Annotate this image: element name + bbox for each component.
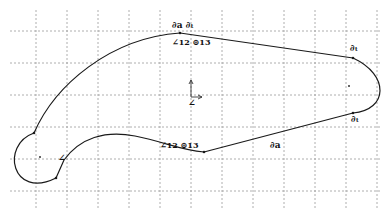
relation-bottom-angle-concentric[interactable]: ∠12 ⊚13: [160, 141, 198, 150]
relation-right-top-tangent[interactable]: ∂ₜ: [350, 44, 358, 53]
left-arc: [14, 133, 56, 183]
right-arc: [353, 58, 380, 113]
origin-angle-icon: ∠: [188, 99, 196, 108]
origin-icon: [189, 80, 202, 99]
sketch-canvas[interactable]: [0, 0, 391, 216]
relation-top-angle-concentric[interactable]: ∠12 ⊚13: [172, 38, 210, 47]
relation-right-bottom-tangent[interactable]: ∂ₜ: [351, 115, 359, 124]
relation-left-angle[interactable]: ∠: [58, 154, 66, 163]
sketch-profile[interactable]: [14, 33, 380, 183]
relation-top-tangent-pair[interactable]: ∂a ∂ₜ: [172, 21, 194, 30]
top-arc: [34, 33, 180, 133]
relation-bottom-line-tangent[interactable]: ∂a: [270, 141, 281, 150]
